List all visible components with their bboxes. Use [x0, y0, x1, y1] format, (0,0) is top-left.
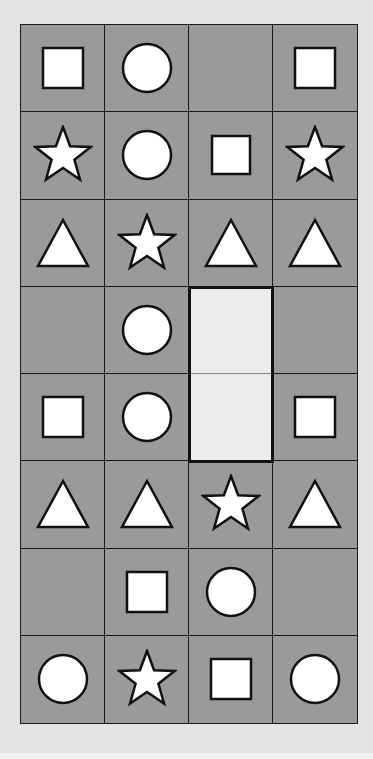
cell-square — [21, 25, 105, 112]
cell-empty — [273, 549, 357, 636]
cell-circle — [273, 636, 357, 723]
square-icon — [125, 570, 169, 614]
triangle-icon — [287, 478, 343, 530]
cell-square — [105, 549, 189, 636]
cell-star — [21, 112, 105, 199]
circle-icon — [205, 566, 257, 618]
cell-circle — [105, 374, 189, 461]
bottom-strip — [0, 753, 373, 759]
circle-icon — [121, 304, 173, 356]
cell-square — [189, 636, 273, 723]
circle-icon — [121, 129, 173, 181]
cell-circle — [189, 549, 273, 636]
square-icon — [209, 657, 253, 701]
star-icon — [285, 125, 345, 185]
cell-empty — [273, 287, 357, 374]
cell-star — [105, 636, 189, 723]
cell-circle — [105, 287, 189, 374]
cell-triangle — [21, 461, 105, 548]
circle-icon — [121, 42, 173, 94]
triangle-icon — [35, 217, 91, 269]
square-icon — [293, 395, 337, 439]
square-icon — [293, 46, 337, 90]
cell-square — [21, 374, 105, 461]
cell-triangle — [273, 200, 357, 287]
cell-triangle — [273, 461, 357, 548]
square-icon — [41, 395, 85, 439]
cell-star — [105, 200, 189, 287]
cell-triangle — [21, 200, 105, 287]
star-icon — [33, 125, 93, 185]
circle-icon — [289, 653, 341, 705]
triangle-icon — [119, 478, 175, 530]
cell-circle — [21, 636, 105, 723]
circle-icon — [121, 391, 173, 443]
cell-empty — [21, 287, 105, 374]
answer-cell[interactable] — [189, 287, 273, 374]
cell-triangle — [189, 200, 273, 287]
cell-circle — [105, 25, 189, 112]
answer-cell[interactable] — [189, 374, 273, 461]
cell-star — [273, 112, 357, 199]
cell-square-small — [189, 112, 273, 199]
star-icon — [117, 213, 177, 273]
cell-empty — [189, 25, 273, 112]
cell-square — [273, 374, 357, 461]
triangle-icon — [287, 217, 343, 269]
cell-circle — [105, 112, 189, 199]
circle-icon — [37, 653, 89, 705]
cell-triangle — [105, 461, 189, 548]
triangle-icon — [35, 478, 91, 530]
star-icon — [117, 649, 177, 709]
star-icon — [201, 474, 261, 534]
square-icon — [210, 134, 252, 176]
cell-star — [189, 461, 273, 548]
square-icon — [41, 46, 85, 90]
triangle-icon — [203, 217, 259, 269]
cell-square — [273, 25, 357, 112]
cell-empty — [21, 549, 105, 636]
puzzle-grid — [20, 24, 358, 724]
